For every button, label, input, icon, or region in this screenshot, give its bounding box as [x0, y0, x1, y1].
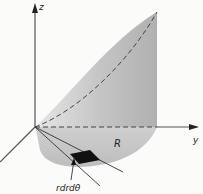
element-label: rdrdθ [56, 183, 81, 193]
surface-sheet [35, 12, 157, 127]
region-r-base [35, 127, 157, 167]
z-axis-arrow-icon [32, 3, 38, 13]
x-axis [0, 127, 35, 162]
region-r-label: R [114, 138, 121, 149]
diagram-canvas: z y R rdrdθ [0, 0, 203, 194]
y-axis-label: y [192, 135, 199, 145]
z-axis-label: z [38, 2, 44, 12]
y-axis-arrow-icon [189, 124, 199, 130]
